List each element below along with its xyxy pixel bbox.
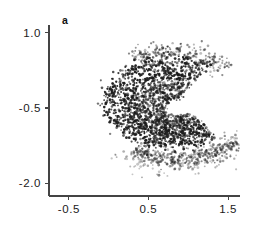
scatter-point [107,114,109,116]
scatter-point [129,83,131,85]
scatter-point [170,77,173,80]
scatter-point [145,89,147,91]
scatter-point [190,166,192,168]
scatter-point [167,116,169,118]
scatter-point [140,150,142,152]
scatter-point [160,86,162,88]
scatter-point [173,149,175,151]
scatter-point [138,59,140,61]
scatter-point [205,158,207,160]
scatter-point [225,62,227,64]
scatter-point [153,159,155,161]
scatter-point [177,96,180,99]
scatter-point [114,109,117,112]
scatter-point [130,153,132,155]
scatter-point [205,55,207,57]
scatter-point [153,103,155,105]
scatter-point [110,109,112,111]
scatter-point [193,154,195,156]
scatter-point [206,64,208,66]
scatter-point [156,79,158,81]
scatter-point [164,127,166,129]
scatter-point [196,159,198,161]
scatter-point [185,73,187,75]
scatter-point [142,96,145,99]
scatter-point [141,92,144,95]
scatter-point [156,70,158,72]
scatter-point [103,106,106,109]
scatter-point [149,116,152,119]
scatter-point [142,137,144,139]
scatter-point [162,52,164,54]
scatter-point [110,87,112,89]
scatter-point [217,150,219,152]
scatter-point [160,169,162,171]
scatter-point [212,144,214,146]
scatter-point [170,71,172,73]
scatter-point [132,122,134,124]
scatter-point [143,82,145,84]
scatter-point [174,78,176,80]
scatter-point [178,167,181,170]
scatter-point [211,56,213,58]
scatter-point [140,125,142,127]
scatter-point [208,52,211,55]
scatter-point [122,120,124,122]
scatter-point [200,125,202,127]
scatter-point [151,124,153,126]
scatter-point [111,95,114,98]
scatter-point [219,157,222,160]
scatter-point [137,86,139,88]
scatter-point [152,122,154,124]
scatter-point [158,49,160,51]
scatter-point [143,70,146,73]
scatter-point [135,47,137,49]
scatter-point [148,152,151,155]
scatter-point [157,81,160,84]
scatter-point [174,136,176,138]
scatter-point [212,155,215,158]
scatter-point [134,58,136,60]
scatter-point [147,70,149,72]
scatter-point [179,43,181,45]
scatter-point [152,167,154,169]
scatter-point [131,117,133,119]
scatter-point [158,88,160,90]
scatter-point [177,161,180,164]
scatter-point [161,46,164,49]
scatter-point [172,70,175,73]
scatter-point [225,153,227,155]
scatter-point [191,122,193,124]
scatter-point [156,87,158,89]
scatter-point [226,65,228,67]
scatter-point [216,159,218,161]
scatter-point [145,110,148,113]
scatter-point [182,115,185,118]
scatter-point [163,129,165,131]
scatter-point [234,133,237,136]
scatter-point [178,118,180,120]
scatter-point [174,161,177,164]
scatter-point [159,154,161,156]
scatter-point [120,99,122,101]
scatter-point [127,87,130,90]
scatter-point [230,64,232,66]
scatter-point [140,119,142,121]
x-axis-ticks: -0.50.51.5 [58,196,237,215]
scatter-point [188,62,191,65]
scatter-point [172,89,174,91]
scatter-point [178,127,180,129]
scatter-point [124,78,126,80]
scatter-point [132,102,134,104]
scatter-point [134,102,136,104]
scatter-point [208,153,210,155]
scatter-point [137,146,140,149]
scatter-point [165,119,167,121]
scatter-point [125,126,127,128]
scatter-point [163,73,165,75]
scatter-point [174,57,177,60]
scatter-point [225,145,227,147]
scatter-point [177,158,179,160]
scatter-point [185,87,188,90]
scatter-point [148,95,151,98]
